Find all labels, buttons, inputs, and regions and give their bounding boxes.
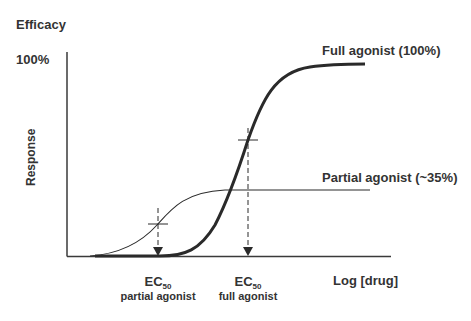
ec50-partial-label: EC50 partial agonist bbox=[108, 272, 208, 302]
partial-agonist-label: Partial agonist (~35%) bbox=[322, 170, 457, 185]
partial-agonist-curve bbox=[90, 190, 370, 256]
ec50-full-desc: full agonist bbox=[203, 290, 293, 302]
x-axis-label: Log [drug] bbox=[333, 273, 398, 288]
full-agonist-label: Full agonist (100%) bbox=[322, 43, 440, 58]
ec50-full-label: EC50 full agonist bbox=[203, 272, 293, 302]
ec50-partial-main: EC bbox=[145, 274, 163, 289]
full-agonist-curve bbox=[95, 64, 365, 256]
ec50-full-arrow-icon bbox=[243, 247, 253, 256]
ec50-partial-desc: partial agonist bbox=[108, 290, 208, 302]
ec50-full-main: EC bbox=[235, 274, 253, 289]
